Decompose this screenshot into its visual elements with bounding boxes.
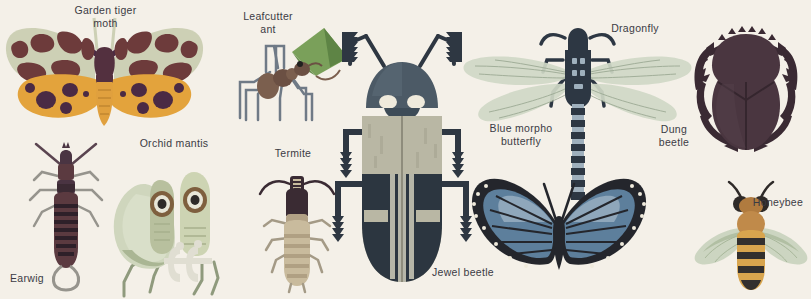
moth-body <box>94 47 115 126</box>
label-termite: Termite <box>258 147 328 160</box>
figure-garden-tiger-moth <box>0 16 210 144</box>
label-leafcutter-ant: Leafcutter ant <box>226 10 310 36</box>
label-dung-beetle: Dung beetle <box>647 123 701 149</box>
label-blue-morpho-butterfly: Blue morpho butterfly <box>476 122 566 148</box>
butterfly-wing-left <box>472 179 557 268</box>
earwig-body <box>53 142 78 290</box>
figure-termite <box>250 168 344 292</box>
label-honeybee: Honeybee <box>745 196 811 209</box>
termite-body <box>284 176 310 292</box>
figure-orchid-mantis <box>102 158 238 298</box>
label-jewel-beetle: Jewel beetle <box>418 266 508 279</box>
insect-poster-canvas: Garden tiger moth Leafcutter ant Jewel b… <box>0 0 811 299</box>
mantis-eyespot-left <box>150 191 174 217</box>
moth-hindwing-left <box>18 74 98 117</box>
beetle-antennae <box>350 36 454 66</box>
butterfly-wing-right <box>561 179 646 268</box>
dung-beetle-body <box>712 26 780 150</box>
beetle-head-pronotum <box>366 62 438 120</box>
figure-dung-beetle <box>688 20 804 160</box>
label-earwig: Earwig <box>2 272 52 285</box>
moth-hindwing-right <box>111 74 191 117</box>
label-garden-tiger-moth: Garden tiger moth <box>58 4 153 30</box>
bee-body <box>733 196 769 290</box>
mantis-eyespot-right <box>183 187 207 213</box>
beetle-elytra <box>362 116 442 282</box>
label-dragonfly: Dragonfly <box>600 22 670 35</box>
butterfly-body <box>553 216 565 270</box>
label-orchid-mantis: Orchid mantis <box>124 137 224 150</box>
